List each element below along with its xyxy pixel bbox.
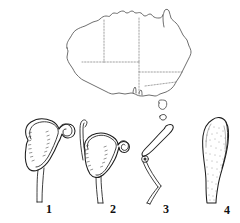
figure-1-label: 1 <box>46 202 52 216</box>
plate-background <box>0 0 240 223</box>
figure-2-label: 2 <box>110 202 116 216</box>
figure-plate: 1 2 <box>0 0 240 223</box>
figure-4-label: 4 <box>224 203 230 217</box>
figure-3-node-center <box>144 158 147 161</box>
figure-3-label: 3 <box>163 202 169 216</box>
